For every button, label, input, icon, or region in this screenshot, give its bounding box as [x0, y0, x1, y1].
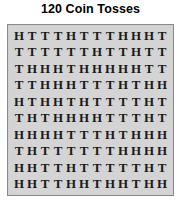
toss-cell: H	[104, 61, 117, 77]
toss-cell: T	[39, 176, 52, 192]
toss-cell: T	[91, 176, 104, 192]
toss-cell: T	[130, 77, 143, 93]
toss-cell: T	[130, 94, 143, 110]
toss-cell: T	[39, 160, 52, 176]
toss-cell: T	[78, 77, 91, 93]
toss-cell: T	[78, 143, 91, 159]
toss-cell: H	[65, 77, 78, 93]
toss-cell: T	[143, 61, 156, 77]
toss-cell: H	[78, 94, 91, 110]
toss-cell: H	[156, 127, 169, 143]
toss-cell: H	[91, 61, 104, 77]
toss-cell: T	[117, 110, 130, 126]
toss-cell: H	[130, 28, 143, 44]
toss-cell: H	[39, 94, 52, 110]
toss-cell: T	[117, 160, 130, 176]
toss-cell: H	[39, 77, 52, 93]
toss-cell: T	[104, 28, 117, 44]
toss-cell: H	[52, 127, 65, 143]
toss-cell: H	[52, 94, 65, 110]
toss-cell: T	[143, 44, 156, 60]
toss-cell: T	[156, 110, 169, 126]
toss-cell: T	[156, 44, 169, 60]
toss-cell: T	[104, 110, 117, 126]
toss-cell: H	[156, 77, 169, 93]
toss-cell: H	[65, 176, 78, 192]
toss-cell: H	[26, 176, 39, 192]
toss-cell: T	[91, 127, 104, 143]
toss-cell: T	[104, 94, 117, 110]
toss-row: TTTTTTHTTHTT	[8, 44, 173, 60]
toss-cell: H	[117, 61, 130, 77]
toss-cell: T	[91, 160, 104, 176]
toss-cell: T	[13, 61, 26, 77]
toss-cell: H	[117, 176, 130, 192]
toss-cell: H	[26, 61, 39, 77]
toss-cell: T	[117, 127, 130, 143]
toss-row: HHHHTTTHTHHH	[8, 127, 173, 143]
toss-cell: T	[65, 44, 78, 60]
toss-cell: T	[39, 44, 52, 60]
coin-toss-figure: 120 Coin Tosses HTTTHTTTHHHTTTTTTTHTTHTT…	[0, 0, 181, 207]
coin-toss-grid: HTTTHTTTHHHTTTTTTTHTTHTTTHHHTHHHHHTTTTHH…	[7, 24, 174, 196]
toss-cell: T	[156, 94, 169, 110]
toss-cell: H	[156, 143, 169, 159]
toss-cell: H	[13, 160, 26, 176]
toss-cell: T	[13, 110, 26, 126]
toss-cell: T	[13, 44, 26, 60]
toss-cell: T	[117, 44, 130, 60]
toss-cell: H	[13, 28, 26, 44]
toss-cell: T	[78, 44, 91, 60]
toss-cell: H	[52, 61, 65, 77]
toss-row: HHTTHTTTTTHT	[8, 160, 173, 176]
toss-cell: H	[65, 28, 78, 44]
toss-cell: H	[39, 127, 52, 143]
toss-cell: T	[39, 110, 52, 126]
toss-cell: H	[65, 110, 78, 126]
toss-row: HHTTHHTHHTHH	[8, 176, 173, 192]
toss-cell: T	[130, 110, 143, 126]
toss-cell: T	[52, 176, 65, 192]
toss-row: THTTTTTTHHHH	[8, 143, 173, 159]
toss-cell: H	[104, 176, 117, 192]
toss-cell: T	[156, 160, 169, 176]
toss-cell: H	[52, 77, 65, 93]
toss-cell: T	[78, 127, 91, 143]
toss-cell: H	[52, 110, 65, 126]
page-title: 120 Coin Tosses	[0, 2, 181, 16]
toss-cell: T	[104, 160, 117, 176]
toss-cell: T	[156, 61, 169, 77]
toss-cell: H	[26, 143, 39, 159]
toss-cell: T	[26, 94, 39, 110]
toss-cell: H	[156, 176, 169, 192]
toss-cell: H	[143, 143, 156, 159]
toss-cell: T	[104, 44, 117, 60]
toss-row: THHHTHHHHHTT	[8, 61, 173, 77]
toss-cell: H	[78, 61, 91, 77]
toss-cell: H	[13, 176, 26, 192]
toss-cell: T	[91, 77, 104, 93]
toss-cell: H	[13, 94, 26, 110]
toss-cell: H	[26, 110, 39, 126]
toss-cell: H	[26, 160, 39, 176]
toss-cell: T	[52, 28, 65, 44]
toss-cell: H	[143, 127, 156, 143]
toss-cell: H	[65, 160, 78, 176]
toss-cell: T	[26, 28, 39, 44]
toss-cell: T	[52, 143, 65, 159]
toss-cell: H	[143, 94, 156, 110]
toss-cell: T	[104, 77, 117, 93]
toss-cell: H	[91, 110, 104, 126]
toss-cell: T	[39, 143, 52, 159]
toss-cell: H	[143, 160, 156, 176]
toss-cell: H	[78, 110, 91, 126]
toss-cell: H	[78, 176, 91, 192]
toss-cell: T	[65, 143, 78, 159]
toss-cell: H	[143, 77, 156, 93]
toss-cell: T	[104, 143, 117, 159]
toss-row: HTHHTHTTTTHT	[8, 94, 173, 110]
toss-cell: T	[130, 176, 143, 192]
toss-cell: T	[39, 28, 52, 44]
toss-cell: T	[91, 143, 104, 159]
toss-cell: T	[26, 44, 39, 60]
